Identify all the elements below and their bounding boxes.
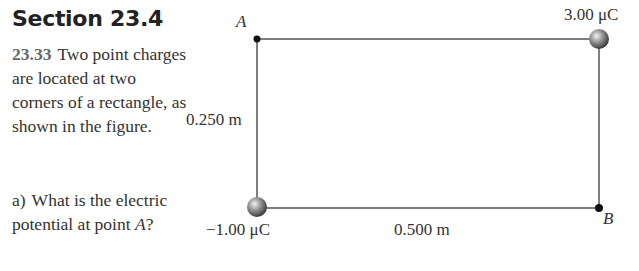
point-a-label: A	[236, 12, 246, 32]
charge-top-right-label: 3.00 μC	[564, 5, 618, 25]
height-dimension-label: 0.250 m	[186, 110, 242, 130]
charge-bottom-left-label: −1.00 μC	[206, 220, 270, 240]
point-a-dot	[254, 36, 261, 43]
width-dimension-label: 0.500 m	[394, 220, 450, 240]
rectangle-outline	[257, 39, 599, 208]
charge-sphere-negative	[247, 197, 267, 217]
point-b-dot	[595, 204, 603, 212]
rectangle-figure	[0, 0, 639, 271]
charge-sphere-positive	[589, 29, 609, 49]
point-b-label: B	[603, 209, 613, 229]
